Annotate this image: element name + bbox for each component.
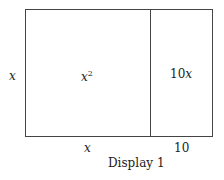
region-10x-label: 10x	[170, 68, 192, 80]
region-x-squared-label: x2	[81, 68, 93, 83]
region-x-squared-base: x	[81, 70, 88, 84]
caption: Display 1	[108, 157, 165, 169]
side-label-x: x	[9, 70, 16, 82]
region-x-squared-exponent: 2	[88, 69, 93, 78]
region-divider	[150, 9, 151, 136]
region-10x-variable: x	[185, 67, 192, 81]
bottom-label-10: 10	[174, 142, 189, 154]
bottom-label-x: x	[84, 142, 91, 154]
region-10x-coefficient: 10	[170, 67, 185, 81]
